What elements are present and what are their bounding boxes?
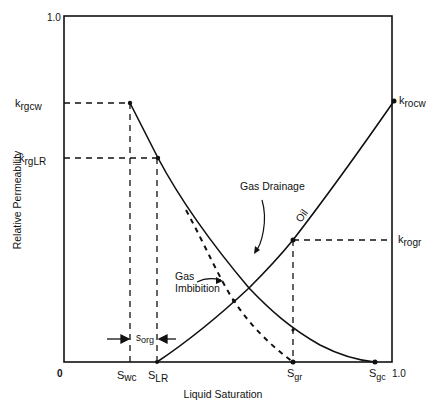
krogr-point xyxy=(291,238,296,243)
y-axis-title: Relative Permeability xyxy=(11,150,23,249)
krocw-point xyxy=(392,99,397,104)
drainage-at-sgr-point xyxy=(291,328,294,331)
slr-point xyxy=(155,360,159,364)
sorg-label: sorg xyxy=(136,332,154,345)
reference-lines xyxy=(64,103,392,362)
gas-drainage-curve xyxy=(130,103,375,362)
sgr-label: Sgr xyxy=(287,367,302,382)
sgc-point xyxy=(373,360,378,365)
swc-label: Swc xyxy=(117,369,137,383)
krglr-point xyxy=(156,156,160,160)
gas-drainage-leader xyxy=(255,200,264,252)
sorg-right-arrow-icon xyxy=(159,335,167,343)
data-points xyxy=(128,99,397,365)
krogr-label: krogr xyxy=(398,233,422,248)
oil-curve xyxy=(157,101,394,362)
y-axis-max-label: 1.0 xyxy=(47,12,61,23)
x-axis-title: Liquid Saturation xyxy=(184,388,263,400)
gas-imbibition-annotation-line1: Gas xyxy=(175,270,194,282)
x-axis-max-label: 1.0 xyxy=(392,368,406,379)
sgc-label: Sgc xyxy=(369,367,386,382)
imbibition-oil-intersection-point xyxy=(232,299,236,303)
plot-frame xyxy=(64,16,392,362)
krglr-label: krgLR xyxy=(19,152,46,167)
sgr-point xyxy=(291,360,296,365)
gas-drainage-annotation: Gas Drainage xyxy=(240,180,305,192)
relative-permeability-chart: 1.0 krgcw krgLR krocw krogr 0 Swc SLR Sg… xyxy=(0,0,442,409)
krocw-label: krocw xyxy=(399,94,426,109)
krgcw-point xyxy=(128,101,132,105)
sorg-left-arrow-icon xyxy=(121,335,129,343)
x-axis-zero-label: 0 xyxy=(57,368,63,379)
gas-imbibition-annotation-line2: Imbibition xyxy=(175,282,220,294)
krgcw-label: krgcw xyxy=(15,97,42,112)
slr-label: SLR xyxy=(148,369,168,384)
